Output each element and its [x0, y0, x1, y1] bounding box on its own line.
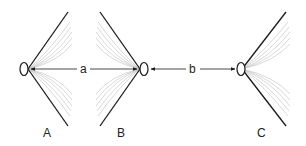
diagram: A B	[0, 0, 306, 146]
fan-pattern-c	[242, 22, 290, 116]
reflector-bottom-c	[242, 69, 286, 126]
distance-label-b: b	[189, 62, 196, 76]
element-icon-b	[140, 63, 148, 76]
device-label-b: B	[117, 126, 125, 140]
element-icon-a	[20, 63, 28, 76]
distance-b: b	[151, 62, 235, 76]
device-c: C	[237, 12, 290, 140]
device-a: A	[20, 12, 72, 140]
reflector-top-c	[242, 12, 286, 69]
distance-label-a: a	[80, 62, 87, 76]
element-icon-c	[237, 63, 245, 76]
device-label-c: C	[257, 126, 266, 140]
device-b: B	[96, 12, 148, 140]
device-label-a: A	[43, 126, 51, 140]
distance-a: a	[31, 62, 137, 76]
